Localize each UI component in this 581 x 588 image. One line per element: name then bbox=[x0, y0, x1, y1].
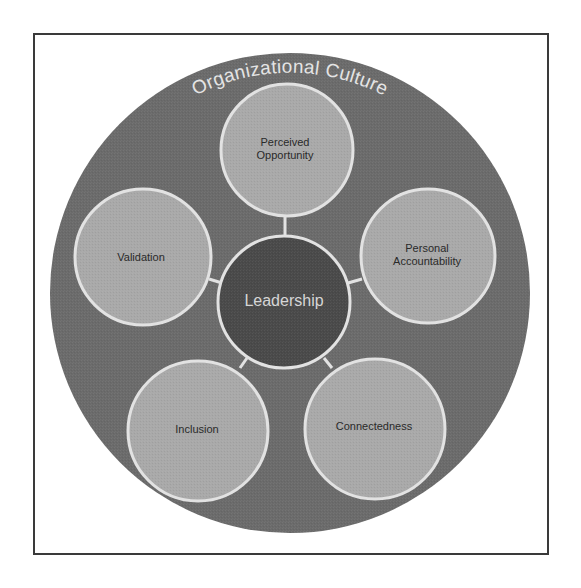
node-connectedness: Connectedness bbox=[305, 359, 445, 499]
node-inclusion: Inclusion bbox=[128, 361, 268, 501]
node-label-line-1: Personal bbox=[405, 242, 448, 254]
node-label-line-1: Validation bbox=[117, 251, 165, 263]
node-label-line-1: Connectedness bbox=[336, 420, 413, 432]
center-node-leadership: Leadership bbox=[218, 236, 350, 368]
node-perceived-opportunity: Perceived Opportunity bbox=[221, 84, 353, 216]
node-validation: Validation bbox=[75, 189, 211, 325]
node-label-line-1: Inclusion bbox=[175, 423, 218, 435]
node-label-line-2: Opportunity bbox=[257, 149, 314, 161]
center-node-label: Leadership bbox=[244, 292, 323, 309]
node-personal-accountability: Personal Accountability bbox=[361, 189, 495, 323]
node-label-line-2: Accountability bbox=[393, 255, 461, 267]
organizational-culture-diagram: Organizational Culture Perceived Opportu… bbox=[0, 0, 581, 588]
node-label-line-1: Perceived bbox=[261, 136, 310, 148]
